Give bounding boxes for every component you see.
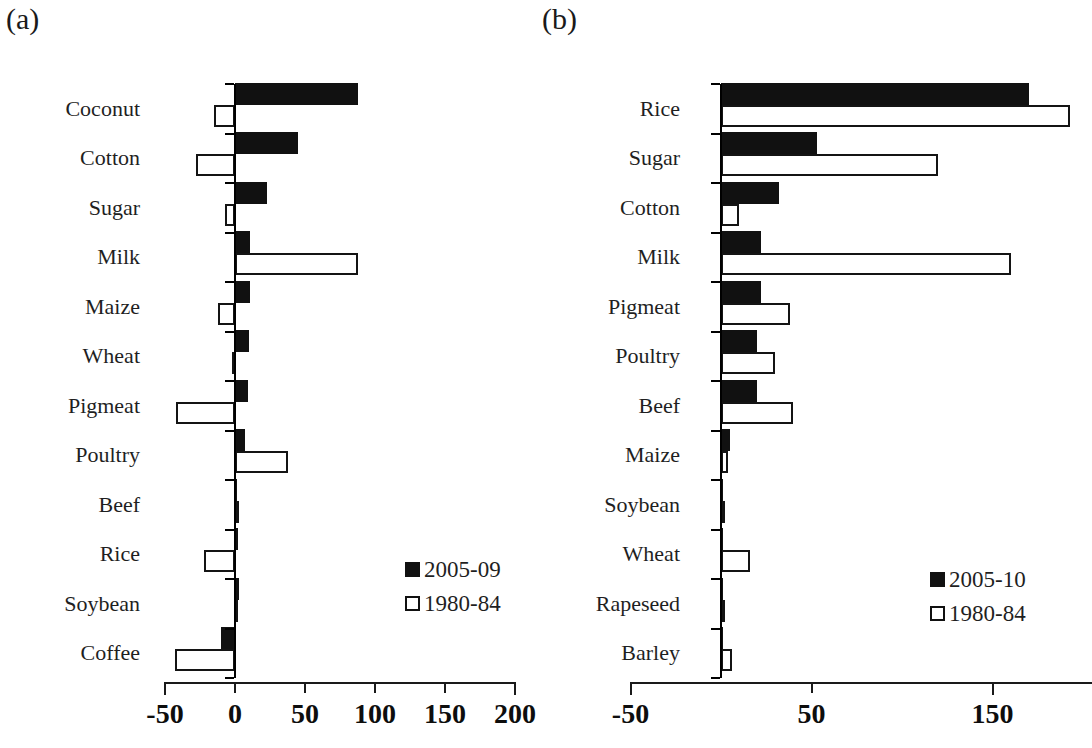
- legend-label: 1980-84: [949, 602, 1026, 625]
- axis-tick: [444, 682, 446, 693]
- row-tick: [711, 628, 720, 630]
- legend-swatch-open-icon: [405, 596, 420, 611]
- bar-area: [540, 84, 1092, 134]
- chart-row: Coconut: [0, 84, 540, 134]
- chart-legend: 2005-101980-84: [930, 562, 1026, 630]
- bar-area: [0, 183, 540, 233]
- row-tick: [711, 479, 720, 481]
- bar-series-old: [218, 303, 235, 325]
- legend-label: 1980-84: [424, 592, 501, 615]
- row-tick: [225, 628, 234, 630]
- axis-tick-label: 0: [228, 698, 242, 730]
- bar-area: [540, 431, 1092, 481]
- bar-series-old: [196, 154, 235, 176]
- bar-series-new: [721, 281, 761, 303]
- bar-series-old: [204, 550, 235, 572]
- axis-tick: [630, 682, 632, 695]
- axis-tick-label: 50: [798, 698, 826, 730]
- row-tick: [225, 380, 234, 382]
- chart-row: Cotton: [0, 134, 540, 184]
- bar-series-new: [235, 429, 245, 451]
- bar-series-new: [235, 83, 358, 105]
- bar-area: [540, 183, 1092, 233]
- bar-area: [0, 381, 540, 431]
- panel-b: (b) RiceSugarCottonMilkPigmeatPoultryBee…: [540, 0, 1092, 748]
- bar-series-new: [235, 182, 267, 204]
- panel-a: (a) CoconutCottonSugarMilkMaizeWheatPigm…: [0, 0, 540, 748]
- axis-tick: [374, 682, 376, 693]
- chart-row: Beef: [540, 381, 1092, 431]
- chart-legend: 2005-091980-84: [405, 552, 501, 620]
- chart-row: Barley: [540, 629, 1092, 679]
- chart-row: Beef: [0, 480, 540, 530]
- bar-series-old: [721, 649, 732, 671]
- chart-row: Sugar: [0, 183, 540, 233]
- row-tick: [711, 182, 720, 184]
- bar-series-old: [235, 253, 358, 275]
- axis-tick: [514, 682, 516, 695]
- row-tick: [225, 578, 234, 580]
- legend-label: 2005-09: [424, 558, 501, 581]
- axis-tick-label: 150: [424, 698, 466, 730]
- bar-area: [0, 431, 540, 481]
- legend-item: 1980-84: [405, 586, 501, 620]
- row-tick: [225, 677, 234, 679]
- chart-row: Pigmeat: [0, 381, 540, 431]
- bar-series-new: [721, 83, 1029, 105]
- axis-line: [165, 682, 515, 684]
- bar-area: [540, 480, 1092, 530]
- bar-area: [0, 282, 540, 332]
- bar-series-new: [721, 429, 730, 451]
- row-tick: [711, 529, 720, 531]
- chart-row: Milk: [0, 233, 540, 283]
- axis-tick: [304, 682, 306, 693]
- chart-row: Milk: [540, 233, 1092, 283]
- panel-a-label: (a): [6, 2, 39, 36]
- bar-series-old: [721, 204, 739, 226]
- bar-series-new: [235, 132, 298, 154]
- zero-axis-line: [234, 84, 236, 678]
- bar-series-old: [176, 402, 235, 424]
- chart-row: Maize: [540, 431, 1092, 481]
- bar-series-old: [721, 402, 793, 424]
- row-tick: [711, 430, 720, 432]
- legend-item: 2005-10: [930, 562, 1026, 596]
- bar-area: [540, 629, 1092, 679]
- row-tick: [225, 479, 234, 481]
- bar-series-new: [721, 231, 761, 253]
- bar-area: [540, 233, 1092, 283]
- chart-row: Wheat: [0, 332, 540, 382]
- bar-series-new: [235, 231, 250, 253]
- bar-area: [0, 332, 540, 382]
- chart-row: Rice: [540, 84, 1092, 134]
- chart-row: Pigmeat: [540, 282, 1092, 332]
- bar-series-old: [721, 352, 775, 374]
- bar-area: [0, 629, 540, 679]
- legend-swatch-filled-icon: [930, 572, 945, 587]
- bar-series-old: [721, 303, 790, 325]
- bar-series-new: [721, 330, 757, 352]
- row-tick: [225, 331, 234, 333]
- bar-area: [0, 480, 540, 530]
- bar-area: [540, 332, 1092, 382]
- row-tick: [711, 133, 720, 135]
- row-tick: [711, 578, 720, 580]
- axis-tick: [234, 682, 236, 693]
- bar-area: [540, 134, 1092, 184]
- legend-swatch-filled-icon: [405, 562, 420, 577]
- bar-area: [0, 233, 540, 283]
- row-tick: [711, 281, 720, 283]
- bar-series-old: [721, 451, 728, 473]
- bar-series-new: [235, 380, 248, 402]
- bar-series-old: [235, 451, 288, 473]
- bar-area: [0, 84, 540, 134]
- chart-row: Soybean: [540, 480, 1092, 530]
- row-tick: [225, 281, 234, 283]
- bar-series-old: [175, 649, 235, 671]
- panel-b-label: (b): [542, 2, 577, 36]
- legend-swatch-open-icon: [930, 606, 945, 621]
- bar-area: [540, 282, 1092, 332]
- bar-series-new: [235, 281, 250, 303]
- axis-tick-label: -50: [146, 698, 183, 730]
- row-tick: [711, 232, 720, 234]
